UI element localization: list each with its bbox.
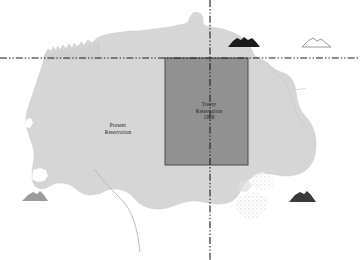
butte-symbol-north-outline: [302, 38, 331, 47]
map-canvas: [0, 0, 360, 260]
reservation-map-figure: Present Reservation Treaty Reservation 1…: [0, 0, 360, 260]
butte-symbol-southeast: [289, 191, 316, 202]
stipple-patch-c: [238, 180, 252, 192]
butte-symbol-southwest: [22, 191, 48, 201]
stipple-patch-a: [236, 192, 268, 220]
south-inlet: [88, 194, 106, 205]
treaty-reservation-1868-area[interactable]: [165, 58, 248, 165]
